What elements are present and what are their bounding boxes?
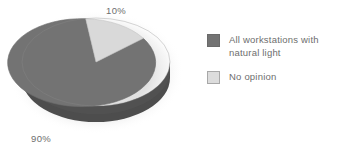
legend-item-label: All workstations with natural light <box>229 33 345 59</box>
pie-chart-figure: 10% 90% All workstations with natural li… <box>0 0 345 156</box>
legend-item-label: No opinion <box>229 70 276 83</box>
light-gray-swatch-icon <box>207 71 220 84</box>
legend-item-no-opinion: No opinion <box>207 70 345 84</box>
chart-legend: All workstations with natural light No o… <box>207 33 345 95</box>
pie-chart-plot-area: 10% 90% <box>0 0 200 156</box>
dark-gray-swatch-icon <box>207 34 220 47</box>
slice-label-no-opinion: 10% <box>106 5 126 16</box>
legend-item-all-workstations: All workstations with natural light <box>207 33 345 59</box>
slice-label-all-workstations: 90% <box>31 133 51 144</box>
pie-chart-svg <box>0 0 200 156</box>
